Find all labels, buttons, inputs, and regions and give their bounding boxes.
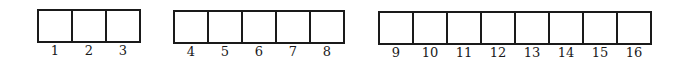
cell-box: 8 <box>309 10 345 44</box>
cell-number-label: 2 <box>73 44 105 58</box>
cell-box: 3 <box>105 9 141 43</box>
cell-group-1: 123 <box>37 9 141 43</box>
cell-box: 10 <box>412 11 448 45</box>
cell-number-label: 3 <box>107 44 139 58</box>
cell-box: 14 <box>548 11 584 45</box>
cell-group-2: 45678 <box>173 10 345 44</box>
cell-box: 2 <box>71 9 107 43</box>
cell-box: 11 <box>446 11 482 45</box>
cell-number-label: 7 <box>277 45 309 59</box>
cell-number-label: 10 <box>414 46 446 60</box>
cell-box: 6 <box>241 10 277 44</box>
cell-box: 15 <box>582 11 618 45</box>
cell-number-label: 9 <box>380 46 412 60</box>
cell-number-label: 13 <box>516 46 548 60</box>
cell-number-label: 8 <box>311 45 343 59</box>
cell-group-3: 910111213141516 <box>378 11 652 45</box>
cell-number-label: 15 <box>584 46 616 60</box>
cell-number-label: 1 <box>39 44 71 58</box>
cell-box: 9 <box>378 11 414 45</box>
cell-number-label: 14 <box>550 46 582 60</box>
cell-box: 16 <box>616 11 652 45</box>
cell-number-label: 5 <box>209 45 241 59</box>
cell-number-label: 6 <box>243 45 275 59</box>
cell-box: 4 <box>173 10 209 44</box>
cell-box: 1 <box>37 9 73 43</box>
cell-box: 5 <box>207 10 243 44</box>
cell-number-label: 12 <box>482 46 514 60</box>
cell-box: 12 <box>480 11 516 45</box>
cell-box: 7 <box>275 10 311 44</box>
cell-box: 13 <box>514 11 550 45</box>
cell-number-label: 4 <box>175 45 207 59</box>
cell-number-label: 11 <box>448 46 480 60</box>
cell-number-label: 16 <box>618 46 650 60</box>
